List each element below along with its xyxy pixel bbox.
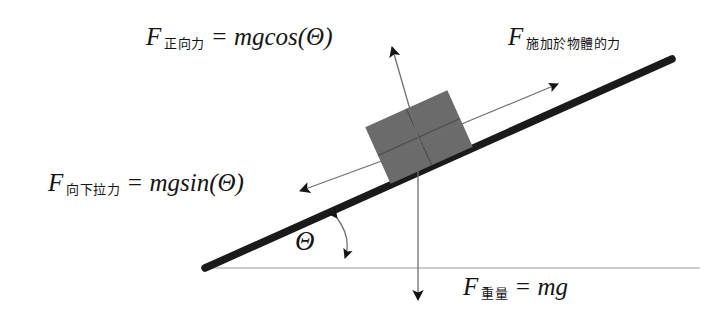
normal-force-subscript: 正向力 xyxy=(164,36,205,51)
incline-surface xyxy=(205,59,672,268)
block-on-incline xyxy=(365,90,473,183)
parallel-force-equation: = mgsin(Θ) xyxy=(126,169,244,196)
angle-theta-label: Θ xyxy=(295,226,315,257)
applied-force-label: F施加於物體的力 xyxy=(508,24,621,50)
weight-force-subscript: 重量 xyxy=(481,286,508,301)
applied-force-subscript: 施加於物體的力 xyxy=(526,36,621,51)
weight-force-equation: = mg xyxy=(514,273,568,300)
physics-diagram-canvas: F正向力= mgcos(Θ) F施加於物體的力 F向下拉力= mgsin(Θ) … xyxy=(0,0,708,332)
weight-force-label: F重量= mg xyxy=(463,274,568,300)
normal-force-symbol: F xyxy=(146,23,161,50)
normal-force-equation: = mgcos(Θ) xyxy=(211,23,333,50)
angle-arc xyxy=(337,218,347,258)
applied-force-symbol: F xyxy=(508,23,523,50)
parallel-force-subscript: 向下拉力 xyxy=(66,182,120,197)
parallel-force-label: F向下拉力= mgsin(Θ) xyxy=(48,170,244,196)
normal-force-label: F正向力= mgcos(Θ) xyxy=(146,24,333,50)
parallel-force-symbol: F xyxy=(48,169,63,196)
weight-force-symbol: F xyxy=(463,273,478,300)
